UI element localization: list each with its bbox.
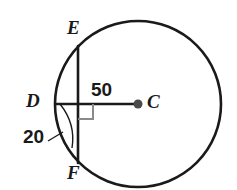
measure-label-radius: 50 xyxy=(91,80,112,99)
arc-DF-marker xyxy=(60,104,73,148)
point-label-d: D xyxy=(26,91,40,110)
point-label-f: F xyxy=(67,163,80,182)
geometry-figure: E D C F 50 20 xyxy=(0,0,237,190)
measure-label-arc: 20 xyxy=(23,127,44,146)
point-label-e: E xyxy=(67,18,80,37)
center-point-dot xyxy=(134,100,143,109)
point-label-c: C xyxy=(147,92,160,111)
right-angle-marker xyxy=(78,104,93,119)
